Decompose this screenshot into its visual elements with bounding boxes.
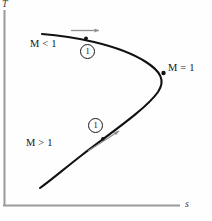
fanno-curve [40, 34, 162, 188]
subsonic-label: M < 1 [30, 38, 57, 49]
lower-flow-arrow-icon [88, 131, 119, 151]
upper-flow-arrow-icon [71, 28, 99, 32]
upper-state-dot [84, 36, 88, 40]
state-marker-upper: 1 [80, 44, 95, 59]
sonic-label: M = 1 [168, 62, 195, 73]
state-marker-lower: 1 [88, 118, 103, 133]
ts-diagram-figure: T s M < 1 M = 1 M > 1 1 1 [0, 0, 212, 221]
entropy-axis-label: s [185, 198, 189, 209]
temperature-axis-label: T [2, 0, 8, 9]
sonic-point-dot [161, 71, 165, 75]
supersonic-label: M > 1 [26, 137, 53, 148]
figure-graphics [0, 0, 212, 221]
